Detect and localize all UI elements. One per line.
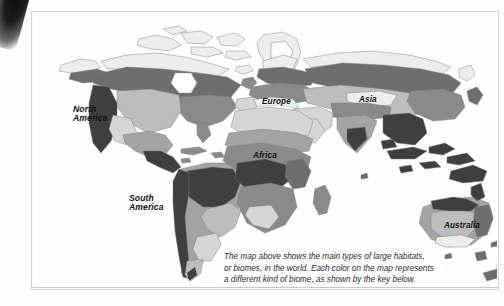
region-new-guinea <box>449 165 487 183</box>
figure-caption-line-3: a different kind of biome, as shown by t… <box>224 274 464 286</box>
region-florida <box>197 123 211 143</box>
world-map-graphic <box>31 11 497 288</box>
figure-caption-line-2: or biomes, in the world. Each color on t… <box>224 263 464 275</box>
scan-shadow-artifact <box>0 0 31 51</box>
region-indonesia-islands <box>381 139 475 173</box>
scanned-page: North America South America Europe Asia … <box>0 0 504 306</box>
figure-caption: The map above shows the main types of la… <box>224 251 464 286</box>
world-biome-map: North America South America Europe Asia … <box>31 11 497 288</box>
region-eastern-temperate-forest <box>177 95 237 127</box>
region-new-zealand-south <box>483 269 497 281</box>
region-caribbean-islands <box>181 147 225 163</box>
region-tasmania <box>475 251 487 261</box>
region-pampas-grassland <box>193 233 221 261</box>
region-central-america-rainforest <box>143 151 181 173</box>
figure-caption-line-1: The map above shows the main types of la… <box>224 251 464 263</box>
region-madagascar <box>313 185 331 215</box>
region-australia-east-forest <box>473 205 493 237</box>
region-japan <box>467 87 483 105</box>
region-iceland <box>235 65 253 74</box>
region-kamchatka <box>459 65 475 81</box>
